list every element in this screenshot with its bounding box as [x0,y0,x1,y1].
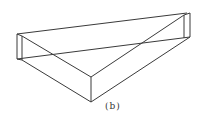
top-edge-back [17,13,187,34]
top-edge-center-to-right [91,15,184,77]
bottom-edge-right [91,37,190,102]
top-edge-left-to-center [22,36,91,77]
figure-caption: (b) [98,101,128,111]
left-bottom-connector [17,59,22,60]
left-top-connector [17,34,22,36]
bottom-edge-left [22,60,91,102]
